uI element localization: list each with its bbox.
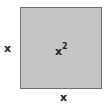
left-side-label: x [4, 43, 11, 54]
area-label: x2 [55, 44, 68, 57]
bottom-side-label: x [60, 92, 67, 103]
area-label-exponent: 2 [62, 42, 68, 51]
